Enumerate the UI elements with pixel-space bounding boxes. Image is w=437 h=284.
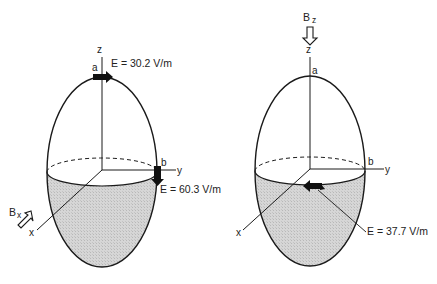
left-point-b-label: b (161, 157, 167, 168)
left-y-label: y (177, 165, 182, 176)
left-ellipsoid: z a E = 30.2 V/m b y E = 60.3 V/m x Bx (9, 44, 221, 267)
left-point-a-label: a (92, 62, 98, 73)
left-x-label: x (29, 227, 34, 238)
right-point-a-label: a (312, 65, 318, 76)
left-e-value-a: E = 30.2 V/m (111, 57, 172, 69)
left-z-label: z (97, 44, 102, 55)
left-e-value-b: E = 60.3 V/m (160, 183, 221, 195)
right-z-label: z (306, 44, 311, 55)
right-ellipsoid: Bz z a b y x E = 37.7 V/m (236, 11, 428, 266)
diagram-canvas: z a E = 30.2 V/m b y E = 60.3 V/m x Bx B… (0, 0, 437, 284)
right-x-label: x (236, 227, 241, 238)
bx-label: Bx (9, 206, 22, 220)
right-point-b-label: b (368, 156, 374, 167)
bz-field-arrow-icon (303, 27, 317, 45)
bz-label: Bz (303, 11, 316, 25)
right-e-value: E = 37.7 V/m (367, 225, 428, 237)
right-y-label: y (385, 164, 390, 175)
